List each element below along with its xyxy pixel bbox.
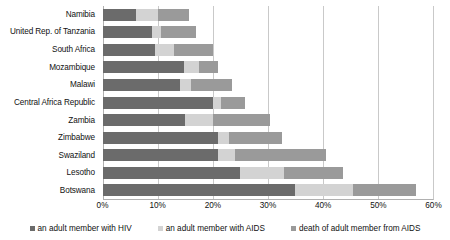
bar-segment-2 (185, 114, 213, 126)
legend-swatch-icon (158, 226, 163, 231)
stacked-bar (103, 184, 433, 196)
bar-segment-3 (158, 9, 190, 21)
stacked-bar (103, 149, 433, 161)
bar-segment-1 (103, 9, 136, 21)
category-label: United Rep. of Tanzania (0, 24, 99, 42)
legend-item: death of adult member from AIDS (291, 225, 421, 233)
bar-segment-3 (174, 44, 213, 56)
bar-row (103, 181, 433, 199)
stacked-bar (103, 97, 433, 109)
bar-segment-3 (221, 97, 245, 109)
bar-segment-1 (103, 79, 180, 91)
x-tick-label: 0% (97, 202, 109, 210)
bar-row (103, 59, 433, 77)
bar-segment-2 (295, 184, 353, 196)
x-tick-label: 40% (315, 202, 331, 210)
plot-area (103, 6, 434, 200)
bar-row (103, 76, 433, 94)
value-axis: 0%10%20%30%40%50%60% (103, 202, 434, 214)
bar-segment-1 (103, 44, 155, 56)
bar-segment-2 (240, 167, 284, 179)
bar-segment-1 (103, 114, 186, 126)
bar-segment-2 (218, 132, 229, 144)
bar-row (103, 111, 433, 129)
bar-segment-3 (235, 149, 327, 161)
category-axis: NamibiaUnited Rep. of TanzaniaSouth Afri… (0, 6, 99, 200)
legend-label: death of adult member from AIDS (299, 225, 421, 233)
legend-label: an adult member with HIV (38, 225, 132, 233)
bar-segment-2 (152, 26, 161, 38)
stacked-bar-chart: NamibiaUnited Rep. of TanzaniaSouth Afri… (0, 0, 450, 240)
bar-row (103, 24, 433, 42)
bar-segment-2 (184, 61, 199, 73)
bar-row (103, 146, 433, 164)
bar-segment-2 (213, 97, 222, 109)
legend-swatch-icon (291, 226, 296, 231)
stacked-bar (103, 26, 433, 38)
category-label: Central Africa Republic (0, 94, 99, 112)
bars-container (103, 6, 433, 199)
stacked-bar (103, 44, 433, 56)
stacked-bar (103, 167, 433, 179)
bar-segment-1 (103, 26, 153, 38)
bar-segment-2 (136, 9, 158, 21)
bar-row (103, 129, 433, 147)
bar-row (103, 94, 433, 112)
x-tick-label: 50% (370, 202, 386, 210)
bar-segment-1 (103, 97, 213, 109)
x-tick-label: 60% (425, 202, 441, 210)
category-label: Malawi (0, 77, 99, 95)
legend-label: an adult member with AIDS (166, 225, 265, 233)
stacked-bar (103, 114, 433, 126)
bar-segment-3 (213, 114, 271, 126)
chart-legend: an adult member with HIVan adult member … (0, 222, 450, 236)
bar-segment-1 (103, 132, 219, 144)
stacked-bar (103, 132, 433, 144)
category-label: Zambia (0, 112, 99, 130)
category-label: Namibia (0, 6, 99, 24)
legend-item: an adult member with HIV (30, 225, 132, 233)
bar-row (103, 41, 433, 59)
bar-segment-1 (103, 167, 241, 179)
category-label: Zimbabwe (0, 129, 99, 147)
legend-item: an adult member with AIDS (158, 225, 265, 233)
bar-segment-1 (103, 61, 184, 73)
x-tick-label: 20% (205, 202, 221, 210)
category-label: South Africa (0, 41, 99, 59)
x-tick-label: 10% (149, 202, 165, 210)
category-label: Botswana (0, 182, 99, 200)
bar-row (103, 164, 433, 182)
bar-segment-3 (284, 167, 343, 179)
bar-segment-3 (191, 79, 232, 91)
bar-segment-3 (353, 184, 416, 196)
bar-segment-1 (103, 184, 296, 196)
bar-segment-2 (218, 149, 235, 161)
category-label: Mozambique (0, 59, 99, 77)
stacked-bar (103, 9, 433, 21)
bar-segment-1 (103, 149, 219, 161)
bar-segment-3 (199, 61, 218, 73)
x-tick-label: 30% (260, 202, 276, 210)
bar-segment-3 (161, 26, 196, 38)
bar-segment-2 (180, 79, 191, 91)
legend-swatch-icon (30, 226, 35, 231)
plot-wrapper: NamibiaUnited Rep. of TanzaniaSouth Afri… (0, 0, 450, 215)
bar-segment-3 (229, 132, 282, 144)
bar-row (103, 6, 433, 24)
stacked-bar (103, 79, 433, 91)
category-label: Lesotho (0, 165, 99, 183)
category-label: Swaziland (0, 147, 99, 165)
bar-segment-2 (155, 44, 174, 56)
stacked-bar (103, 61, 433, 73)
